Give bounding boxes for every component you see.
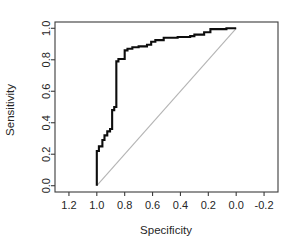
y-tick-label: 0.4: [40, 115, 52, 130]
roc-curve-figure: 1.21.00.80.60.40.20.0-0.2 0.00.20.40.60.…: [0, 0, 298, 249]
x-tick-label: -0.2: [255, 199, 274, 211]
x-axis-ticks: 1.21.00.80.60.40.20.0-0.2: [61, 192, 273, 211]
y-axis-title: Sensitivity: [4, 84, 16, 136]
x-tick-label: 0.0: [229, 199, 244, 211]
y-axis-ticks: 0.00.20.40.60.81.0: [40, 21, 55, 194]
x-axis-title: Specificity: [140, 224, 192, 236]
x-tick-label: 0.8: [117, 199, 132, 211]
y-tick-label: 0.0: [40, 178, 52, 193]
x-tick-label: 0.2: [201, 199, 216, 211]
y-tick-label: 0.8: [40, 52, 52, 67]
roc-plot-svg: 1.21.00.80.60.40.20.0-0.2 0.00.20.40.60.…: [0, 0, 298, 249]
x-tick-label: 0.6: [145, 199, 160, 211]
x-tick-label: 1.0: [89, 199, 104, 211]
y-tick-label: 0.2: [40, 147, 52, 162]
x-tick-label: 0.4: [173, 199, 188, 211]
y-tick-label: 0.6: [40, 84, 52, 99]
x-tick-label: 1.2: [61, 199, 76, 211]
y-tick-label: 1.0: [40, 21, 52, 36]
